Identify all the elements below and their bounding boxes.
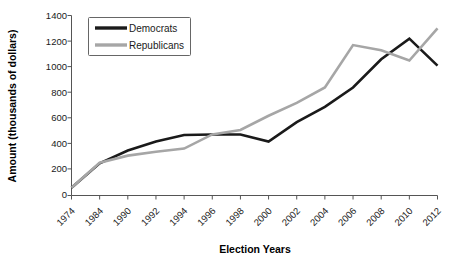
- x-tick-label: 1998: [223, 205, 246, 228]
- x-tick-label: 1994: [167, 205, 190, 228]
- legend-label-democrats: Democrats: [129, 23, 177, 34]
- y-tick-label: 800: [51, 87, 67, 98]
- x-tick-label: 1984: [82, 205, 105, 228]
- x-tick-label: 2012: [420, 205, 443, 228]
- line-chart: Amount (thousands of dollars) 1400 1200 …: [0, 0, 462, 269]
- y-tick-label: 200: [51, 163, 67, 174]
- x-tick-label: 2008: [364, 205, 387, 228]
- x-tick-label: 2006: [336, 205, 359, 228]
- legend-label-republicans: Republicans: [129, 40, 184, 51]
- y-tick-label: 1000: [46, 61, 67, 72]
- y-tick-label: 1200: [46, 36, 67, 47]
- y-tick-label: 400: [51, 138, 67, 149]
- x-tick-label: 1992: [139, 205, 162, 228]
- y-tick-label: 0: [62, 189, 67, 200]
- x-tick-label: 1996: [195, 205, 218, 228]
- x-tick-label: 1990: [110, 205, 133, 228]
- x-tick-label: 2010: [392, 205, 415, 228]
- series-line-democrats: [72, 39, 438, 188]
- x-tick-label: 2004: [308, 205, 331, 228]
- x-tick-label: 1974: [54, 205, 77, 228]
- y-axis-title: Amount (thousands of dollars): [6, 30, 18, 183]
- x-tick-label: 2000: [251, 205, 274, 228]
- y-tick-label: 600: [51, 112, 67, 123]
- y-tick-labels: 1400 1200 1000 800 600 400 200 0: [46, 10, 67, 200]
- y-tick-label: 1400: [46, 10, 67, 21]
- x-tick-labels: 1974198419901992199419961998200020022004…: [54, 205, 443, 228]
- chart-svg: Amount (thousands of dollars) 1400 1200 …: [0, 0, 462, 269]
- x-axis-title: Election Years: [219, 243, 291, 255]
- chart-legend: Democrats Republicans: [89, 18, 191, 56]
- y-tick-marks: [68, 16, 72, 196]
- x-tick-label: 2002: [279, 205, 302, 228]
- x-tick-marks: [72, 196, 438, 200]
